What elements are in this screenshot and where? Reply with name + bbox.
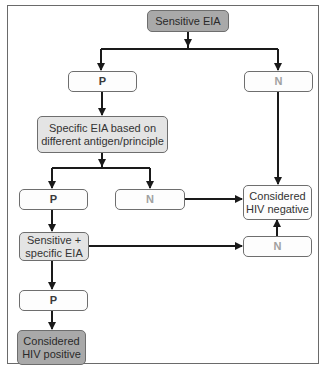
node-label: Sensitive EIA [155,15,220,28]
node-label: N [275,75,283,88]
node-label-line2: HIV positive [22,348,81,361]
node-label-line2: HIV negative [246,203,309,216]
positive-node-1: P [68,71,137,92]
node-label-line2: specific EIA [25,247,82,260]
node-label-line1: Considered [23,335,79,348]
negative-node-2: N [115,189,185,210]
hiv-positive-node: Considered HIV positive [17,330,86,365]
positive-node-3: P [19,290,88,311]
sensitive-eia-node: Sensitive EIA [147,10,229,32]
node-label-line1: Considered [249,190,305,203]
specific-eia-node: Specific EIA based on different antigen/… [37,116,168,153]
node-label-line2: different antigen/principle [41,135,164,148]
node-label: N [146,193,154,206]
node-label: P [99,75,106,88]
negative-node-3: N [243,236,312,257]
node-label: P [50,294,57,307]
positive-node-2: P [19,189,88,210]
node-label: P [50,193,57,206]
node-label-line1: Specific EIA based on [49,122,156,135]
node-label-line1: Sensitive + [27,234,81,247]
hiv-negative-node: Considered HIV negative [243,185,312,220]
sensitive-specific-eia-node: Sensitive + specific EIA [19,232,89,261]
node-label: N [274,240,282,253]
negative-node-1: N [244,71,313,92]
